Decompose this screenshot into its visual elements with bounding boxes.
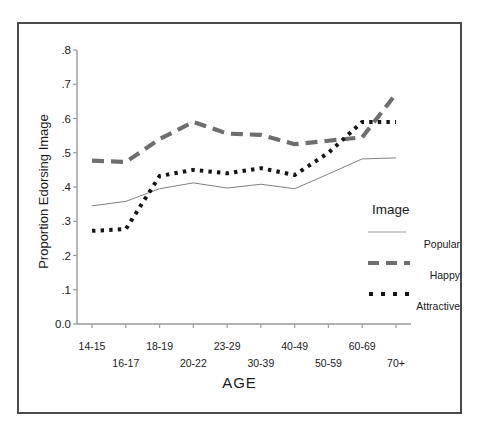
data-series-layer	[92, 94, 396, 231]
y-tick-label: .7	[33, 78, 71, 90]
x-tick-label: 23-29	[214, 340, 241, 352]
x-tick-label: 16-17	[112, 357, 139, 369]
x-tick-label: 20-22	[180, 357, 207, 369]
legend-label-popular: Popular	[362, 238, 462, 250]
x-tick-label: 14-15	[79, 340, 106, 352]
chart-figure-frame: 0.0.1.2.3.4.5.6.7.8 14-1516-1718-1920-22…	[17, 22, 462, 414]
legend-entry-attractive: Attractive	[362, 288, 462, 312]
series-line-happy	[92, 94, 396, 162]
x-tick-label: 18-19	[146, 340, 173, 352]
thick-dashed-line-swatch	[366, 257, 426, 268]
x-tick-label: 50-59	[315, 357, 342, 369]
y-tick-label: 0.0	[33, 318, 71, 330]
x-tick-label: 40-49	[281, 340, 308, 352]
series-line-popular	[92, 158, 396, 206]
legend-title: Image	[362, 202, 462, 217]
chart-legend: Image Popular Happy Attractive	[362, 202, 462, 319]
thick-dotted-line-swatch	[366, 288, 426, 299]
thin-solid-line-swatch	[366, 226, 426, 237]
scan-artifact-top	[120, 0, 370, 8]
x-tick-label: 70+	[387, 357, 405, 369]
plot-area: 0.0.1.2.3.4.5.6.7.8 14-1516-1718-1920-22…	[19, 24, 460, 412]
x-tick-label: 30-39	[247, 357, 274, 369]
legend-entry-popular: Popular	[362, 226, 462, 250]
y-tick-label: .8	[33, 44, 71, 56]
x-axis-title: AGE	[19, 374, 460, 391]
legend-label-attractive: Attractive	[362, 300, 462, 312]
x-tick-label: 60-69	[349, 340, 376, 352]
legend-entry-happy: Happy	[362, 257, 462, 281]
legend-label-happy: Happy	[362, 269, 462, 281]
y-axis-title: Proportion Edorsing Image	[36, 92, 51, 292]
